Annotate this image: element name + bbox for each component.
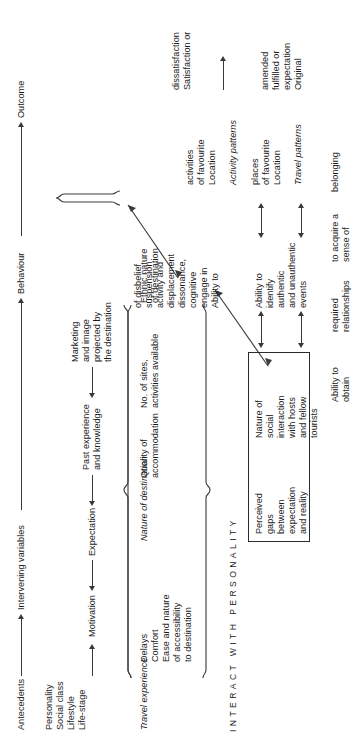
antecedent-expectation: Expectation [87, 508, 97, 556]
axis-segment-3 [21, 126, 22, 236]
outcome-original-line3: fulfilled or [271, 50, 281, 90]
ability2-line2: engage in [199, 268, 209, 308]
behaviour-activity-patterns-heading: Activity patterns [228, 120, 238, 185]
intervening-delays: Delays [139, 634, 149, 662]
intervening-ease-line2: of accessibility [172, 603, 182, 662]
brace-bottom [203, 305, 210, 678]
behaviour-activity-line3: activities [185, 150, 195, 185]
stage-label-behaviour: Behaviour [16, 253, 26, 294]
ability3-line1: Ability to [330, 367, 340, 402]
intervening-quality-line2: accommodation [150, 413, 160, 478]
interaction-letters: INTERACT WITH PERSONALITY [228, 517, 240, 732]
antecedent-arrow-2 [89, 586, 95, 591]
stage-label-antecedents: Antecedents [16, 679, 26, 730]
brace-behaviour [56, 191, 120, 205]
core-perceived-line1: Perceived [254, 493, 264, 534]
double-arrow-1-head-left [258, 343, 264, 348]
antecedent-arrow-line-3 [92, 475, 93, 501]
core-nature-line4: with hosts [287, 397, 297, 438]
double-arrow-3-head-right [258, 203, 264, 208]
axis-segment-2 [21, 302, 22, 510]
intervening-travel-experience-heading: Travel experience [139, 658, 149, 730]
intervening-ease-line3: to destination [183, 607, 193, 662]
outcome-arrow-shaft [223, 60, 224, 90]
behaviour-travel-patterns-heading: Travel patterns [293, 124, 303, 185]
ability2-line4: dissonance, [177, 259, 187, 308]
diagram-canvas: Antecedents Intervening variables Behavi… [0, 0, 363, 738]
core-perceived-line2: gaps [265, 514, 275, 534]
ability2-line3: cognitive [188, 272, 198, 308]
ability3-line4: relationships [341, 280, 351, 332]
ability2-line8: of disbelief [133, 264, 143, 308]
core-nature-line3: interaction [276, 395, 286, 438]
ability1-line3: authentic [276, 271, 286, 308]
diagonal-arrowhead-1b [128, 205, 136, 212]
ability1-line5: events [298, 281, 308, 308]
double-arrow-4-head-right [298, 203, 304, 208]
antecedent-past-experience-line1: Past experience [81, 404, 91, 470]
brace-top [124, 305, 131, 678]
stage-label-intervening: Intervening variables [16, 525, 26, 610]
behaviour-activity-line1: Location [207, 150, 217, 185]
antecedent-marketing-line3: projected by [92, 312, 102, 362]
ability1-line2: identify [265, 279, 275, 308]
double-arrow-1-shaft [261, 315, 262, 343]
intervening-ease-line1: Ease and nature [161, 595, 171, 663]
antecedent-personality: Personality [44, 684, 54, 730]
outcome-original-line2: expectation [282, 43, 292, 90]
double-arrow-2-head-left [298, 343, 304, 348]
behaviour-travel-line1: Location [272, 150, 282, 185]
outcome-original-line4: amended [260, 52, 270, 90]
axis-segment-1 [21, 618, 22, 676]
core-nature-line6: tourists [309, 408, 319, 438]
ability3-line3: required [330, 298, 340, 332]
double-arrow-2-head-right [298, 311, 304, 316]
antecedent-arrow-line-1 [92, 648, 93, 676]
ability3-line2: obtain [341, 377, 351, 402]
ability1-line4: and unauthentic [287, 243, 297, 308]
double-arrow-3-head-left [258, 233, 264, 238]
antecedent-arrow-line-4 [92, 367, 93, 393]
antecedent-marketing-line4: the destination [103, 302, 113, 362]
core-perceived-line4: expectation [287, 487, 297, 534]
core-perceived-line3: between [276, 499, 286, 534]
ability3-line5: to acquire a [330, 214, 340, 262]
ability2-line6: activity and [155, 262, 165, 308]
antecedent-arrow-3 [89, 501, 95, 506]
axis-arrow-2 [18, 298, 24, 303]
outcome-arrow-head [220, 56, 226, 61]
antecedent-arrow-1 [89, 644, 95, 649]
antecedent-past-experience-line2: and knowledge [92, 408, 102, 470]
ability2-line7: suspension [144, 261, 154, 308]
core-nature-line1: Nature of [254, 400, 264, 438]
outcome-satisfaction-line2: dissatisfaction [171, 32, 181, 90]
core-nature-line5: and fellow [298, 397, 308, 438]
diagram-stage: Antecedents Intervening variables Behavi… [0, 0, 363, 738]
outcome-satisfaction-line1: Satisfaction or [182, 32, 192, 90]
ability1-line1: Ability to [254, 273, 264, 308]
axis-arrow-3 [18, 122, 24, 127]
ability2-line5: displacement [166, 254, 176, 308]
intervening-sites-line1: No. of sites, [139, 359, 149, 408]
double-arrow-1-head-right [258, 311, 264, 316]
outcome-original-line1: Original [293, 58, 303, 90]
brace-lower-left [124, 490, 131, 678]
intervening-quality-line1: Quality of [139, 439, 149, 478]
core-nature-line2: social [265, 414, 275, 438]
stage-label-outcome: Outcome [16, 81, 26, 118]
antecedent-social-class: Social class [55, 681, 65, 730]
axis-arrow-1 [18, 614, 24, 619]
antecedent-arrow-4 [89, 393, 95, 398]
antecedent-marketing-line1: Marketing [70, 322, 80, 362]
antecedent-lifestyle: Lifestyle [66, 696, 76, 730]
ability2-line1: Ability to [210, 273, 220, 308]
antecedent-motivation: Motivation [87, 595, 97, 637]
behaviour-travel-line2: of favourite [261, 139, 271, 185]
behaviour-travel-line3: places [250, 158, 260, 185]
double-arrow-4-shaft [301, 207, 302, 233]
core-perceived-line5: and reality [298, 491, 308, 534]
antecedent-arrow-line-2 [92, 560, 93, 586]
ability3-line7: belonging [330, 152, 340, 192]
double-arrow-2-shaft [301, 315, 302, 343]
double-arrow-3-shaft [261, 207, 262, 233]
